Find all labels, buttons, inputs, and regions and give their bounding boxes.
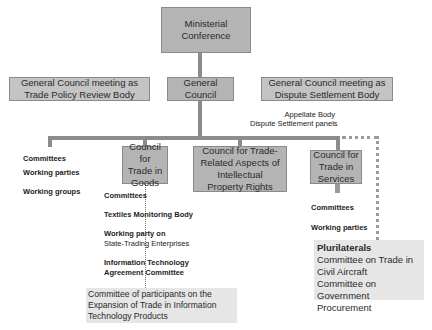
gc-working-parties: Working parties [23,168,80,177]
ita-committee-line3: Technology Products [88,311,217,322]
tprb-line2: Trade Policy Review Body [21,89,138,101]
goods-working-party-line1: Working party on [104,229,166,238]
connector-ministerial-to-gc [198,53,202,77]
connector-gc-to-bar [198,101,202,139]
trips-line1: Council for Trade- [200,145,279,157]
dotted-plurilateral-horizontal [342,136,378,139]
goods-line2: Trade in [123,165,167,177]
services-line2: Trade in [313,161,358,173]
goods-committees: Committees [104,191,147,200]
connector-stub-left [48,136,52,147]
plurilaterals-line1: Committee on Trade in [317,254,421,266]
connector-stub-services [336,136,340,150]
services-line1: Council for [313,149,358,161]
connector-services-stub-below [335,184,340,193]
ds-panels-label: Dispute Settlement panels [250,119,335,128]
council-services-box[interactable]: Council forTrade inServices [310,150,362,184]
plurilaterals-line4: Government Procurement [317,290,421,314]
ita-committee-line1: Committee of participants on the [88,289,217,300]
dotted-plurilateral-vertical [376,136,379,240]
trips-line2: Related Aspects of [200,157,279,169]
goods-ita-line2: Agreement Committee [104,268,184,277]
dsb-line1: General Council meeting as [268,77,385,89]
goods-working-party-line2: State-Trading Enterprises [104,239,189,248]
goods-line1: Council for [123,141,167,165]
appellate-body-label: Appellate Body [250,110,335,119]
general-council-box[interactable]: GeneralCouncil [167,77,234,101]
services-line3: Services [313,173,358,185]
plurilaterals-title: Plurilaterals [317,242,421,254]
ministerial-line1: Ministerial [181,18,230,30]
council-goods-box[interactable]: Council forTrade inGoods [122,146,168,184]
dsb-box[interactable]: General Council meeting asDispute Settle… [261,77,393,101]
gc-working-groups: Working groups [23,187,80,196]
goods-textiles-monitoring-body: Textiles Monitoring Body [104,210,193,219]
tprb-box[interactable]: General Council meeting asTrade Policy R… [9,77,150,101]
plurilaterals-line3: Committee on [317,278,421,290]
dsb-line2: Dispute Settlement Body [268,89,385,101]
ita-committee-box[interactable]: Committee of participants on the Expansi… [86,288,237,323]
dsb-subsidiaries: Appellate Body Dispute Settlement panels [250,110,335,128]
gc-line1: General [184,77,218,89]
trips-line3: Intellectual [200,169,279,181]
tprb-line1: General Council meeting as [21,77,138,89]
goods-line3: Goods [123,177,167,189]
council-trips-box[interactable]: Council for Trade-Related Aspects ofInte… [193,146,287,192]
ita-committee-line2: Expansion of Trade in Information [88,300,217,311]
trips-line4: Property Rights [200,181,279,193]
services-committees: Committees [311,203,354,212]
goods-ita-line1: Information Technology [104,258,189,267]
plurilaterals-box[interactable]: Plurilaterals Committee on Trade in Civi… [314,240,424,300]
plurilaterals-line2: Civil Aircraft [317,266,421,278]
connector-main-bar [48,136,340,140]
ministerial-line2: Conference [181,30,230,42]
ministerial-conference-box[interactable]: MinisterialConference [161,7,251,53]
services-working-parties: Working parties [311,223,368,232]
gc-committees: Committees [23,154,66,163]
gc-line2: Council [184,89,218,101]
